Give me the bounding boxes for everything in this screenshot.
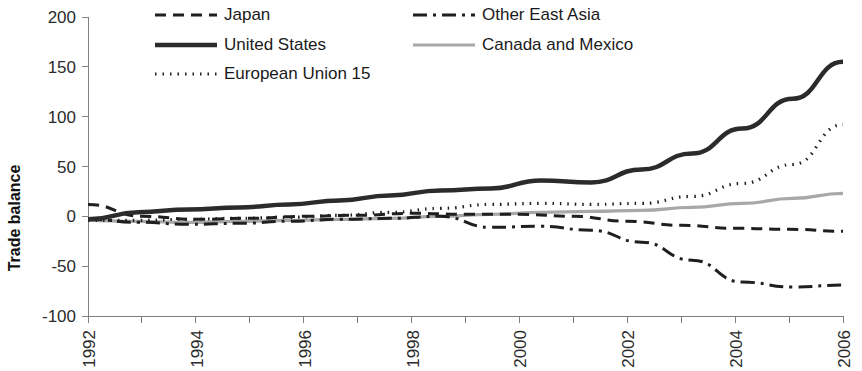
y-tick-label: 150	[48, 58, 76, 77]
legend-item-european-union-15: European Union 15	[155, 64, 371, 83]
x-tick-label: 1998	[404, 330, 423, 368]
y-tick-label: 50	[57, 158, 76, 177]
legend-label-japan: Japan	[224, 5, 270, 24]
x-tick-label: 2006	[835, 330, 854, 368]
series-line-european-union-15	[88, 125, 843, 221]
chart-series	[88, 62, 843, 287]
y-tick-label: 0	[67, 207, 76, 226]
trade-balance-chart: JapanOther East AsiaUnited StatesCanada …	[0, 0, 862, 371]
x-tick-label: 1996	[296, 330, 315, 368]
legend-item-united-states: United States	[155, 35, 326, 54]
y-tick-label: -50	[51, 257, 76, 276]
series-line-other-east-asia	[88, 216, 843, 287]
legend-label-other-east-asia: Other East Asia	[482, 5, 601, 24]
legend-item-canada-and-mexico: Canada and Mexico	[413, 35, 633, 54]
y-tick-label: -100	[42, 307, 76, 326]
x-tick-label: 2002	[619, 330, 638, 368]
x-tick-label: 2004	[727, 330, 746, 368]
legend-item-other-east-asia: Other East Asia	[413, 5, 601, 24]
y-tick-label: 200	[48, 8, 76, 27]
chart-canvas: JapanOther East AsiaUnited StatesCanada …	[0, 0, 862, 371]
series-line-united-states	[88, 62, 843, 220]
legend-label-united-states: United States	[224, 35, 326, 54]
axis-lines	[88, 17, 843, 316]
y-axis-title: Trade balance	[6, 165, 23, 272]
legend-label-european-union-15: European Union 15	[224, 64, 371, 83]
x-tick-label: 1992	[80, 330, 99, 368]
chart-legend: JapanOther East AsiaUnited StatesCanada …	[155, 5, 633, 83]
chart-axes: 200150100500-50-100199219941996199820002…	[42, 8, 854, 368]
x-tick-label: 2000	[511, 330, 530, 368]
y-tick-label: 100	[48, 108, 76, 127]
legend-item-japan: Japan	[155, 5, 270, 24]
legend-label-canada-and-mexico: Canada and Mexico	[482, 35, 633, 54]
x-tick-label: 1994	[188, 330, 207, 368]
